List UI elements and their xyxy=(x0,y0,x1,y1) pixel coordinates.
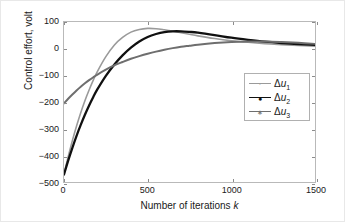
legend-label: Δu3 xyxy=(272,106,290,119)
x-tick-mark xyxy=(317,22,318,25)
x-axis-label: Number of iterations k xyxy=(63,200,316,211)
y-tick-mark xyxy=(312,130,315,131)
x-axis-label-variable: k xyxy=(233,200,238,211)
x-tick-label: 0 xyxy=(60,186,65,195)
x-axis-label-prefix: Number of iterations xyxy=(141,200,234,211)
x-tick-mark xyxy=(148,179,149,182)
chart-figure: 1000−100−200−300−400−500 Number of itera… xyxy=(0,0,345,222)
x-tick-label: 500 xyxy=(140,186,155,195)
y-tick-mark xyxy=(64,76,67,77)
x-tick-mark xyxy=(233,22,234,25)
y-tick-label: −500 xyxy=(39,179,59,188)
y-tick-mark xyxy=(64,103,67,104)
x-tick-mark xyxy=(317,179,318,182)
legend: ·Δu1●Δu2∗Δu3 xyxy=(244,73,310,121)
x-tick-mark xyxy=(148,22,149,25)
legend-label: Δu1 xyxy=(272,78,290,91)
legend-line-sample: ● xyxy=(248,92,272,104)
x-tick-mark xyxy=(233,179,234,182)
y-tick-label: −100 xyxy=(39,71,59,80)
y-tick-mark xyxy=(312,49,315,50)
y-tick-mark xyxy=(64,49,67,50)
legend-marker-icon: ● xyxy=(258,95,262,102)
y-tick-mark xyxy=(312,22,315,23)
legend-label: Δu2 xyxy=(272,92,290,105)
legend-item-1[interactable]: ·Δu1 xyxy=(248,77,306,91)
y-tick-label: −300 xyxy=(39,125,59,134)
y-tick-label: 100 xyxy=(44,17,59,26)
y-tick-label: 0 xyxy=(54,44,59,53)
y-tick-label: −400 xyxy=(39,152,59,161)
legend-item-2[interactable]: ●Δu2 xyxy=(248,91,306,105)
y-tick-label: −200 xyxy=(39,98,59,107)
legend-marker-icon: · xyxy=(259,81,261,88)
y-tick-mark xyxy=(64,130,67,131)
legend-line-sample: · xyxy=(248,78,272,90)
y-axis-label: Control effort, volt xyxy=(23,0,34,126)
y-tick-mark xyxy=(64,157,67,158)
x-tick-label: 1000 xyxy=(222,186,242,195)
y-tick-mark xyxy=(312,157,315,158)
legend-marker-icon: ∗ xyxy=(257,109,263,116)
x-tick-mark xyxy=(64,179,65,182)
x-tick-mark xyxy=(64,22,65,25)
y-tick-mark xyxy=(312,76,315,77)
y-tick-mark xyxy=(312,103,315,104)
x-tick-label: 1500 xyxy=(306,186,326,195)
legend-line-sample: ∗ xyxy=(248,106,272,118)
legend-item-3[interactable]: ∗Δu3 xyxy=(248,105,306,119)
